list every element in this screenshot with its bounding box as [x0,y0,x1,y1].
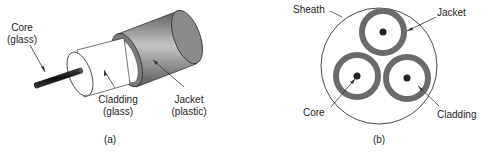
fiber-bottom-left [336,55,378,97]
fiber-diagram: Core (glass) Cladding (glass) Jacket (pl… [0,0,489,156]
jacket-material-label: (plastic) [171,106,206,117]
cladding-label: Cladding [98,94,137,105]
core-label-b: Core [303,107,325,118]
fiber-bottom-right [386,57,428,99]
figure-b-caption: (b) [373,134,385,145]
sheath-label: Sheath [293,4,325,15]
jacket-label-b: Jacket [437,7,466,18]
jacket-label: Jacket [175,94,204,105]
cable-cross-section-figure: Sheath Jacket Core Cladding (b) [293,4,476,145]
fiber-top [362,11,404,53]
sheath-leader-line [330,11,342,17]
arrowhead-icon [41,66,45,72]
core-material-label: (glass) [7,34,37,45]
figure-a-caption: (a) [104,134,116,145]
single-fiber-figure: Core (glass) Cladding (glass) Jacket (pl… [7,6,209,145]
cladding-material-label: (glass) [103,106,133,117]
cladding-label-b: Cladding [437,109,476,120]
cladding-cylinder [62,38,130,99]
core-label: Core [11,22,33,33]
